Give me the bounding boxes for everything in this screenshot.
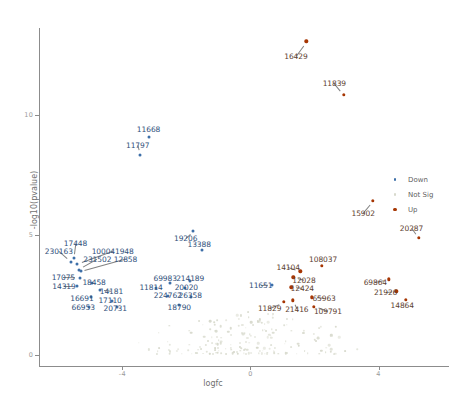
- data-point-not-sig: [211, 342, 213, 344]
- data-point-not-sig: [230, 349, 232, 351]
- point-label: 66953: [72, 303, 95, 312]
- point-label: 12858: [114, 254, 137, 263]
- data-point-not-sig: [325, 351, 327, 353]
- data-point-not-sig: [220, 325, 223, 328]
- data-point-not-sig: [240, 347, 242, 349]
- data-point-not-sig: [272, 313, 274, 315]
- data-point-not-sig: [264, 329, 266, 331]
- data-point-not-sig: [330, 348, 333, 351]
- point-label: 14104: [277, 263, 300, 272]
- data-point-not-sig: [304, 350, 306, 352]
- volcano-plot: -log10(pvalue) logfc 0510-404 1166811797…: [0, 0, 458, 400]
- data-point-not-sig: [248, 317, 250, 319]
- legend-up[interactable]: Up: [388, 202, 456, 217]
- data-point-not-sig: [200, 348, 202, 350]
- data-point-not-sig: [250, 352, 252, 354]
- point-label: 15902: [351, 208, 374, 217]
- point-label: 12028: [292, 275, 315, 284]
- data-point-not-sig: [274, 347, 276, 349]
- data-point-not-sig: [267, 320, 270, 323]
- data-point-not-sig: [284, 324, 286, 326]
- data-point-not-sig: [307, 352, 309, 354]
- data-point-not-sig: [219, 340, 222, 343]
- data-point-not-sig: [286, 318, 288, 320]
- data-point-not-sig: [188, 349, 190, 351]
- x-tick-label: -4: [119, 370, 126, 378]
- data-point-not-sig: [230, 327, 232, 329]
- data-point-not-sig: [277, 353, 278, 354]
- legend-label: Up: [408, 206, 418, 214]
- data-point-not-sig: [202, 324, 203, 325]
- data-point-not-sig: [267, 352, 269, 354]
- data-point-not-sig: [216, 336, 218, 338]
- data-point-not-sig: [256, 346, 258, 348]
- data-point-down: [70, 260, 73, 263]
- point-label: 109791: [314, 307, 342, 316]
- data-point-not-sig: [237, 325, 240, 328]
- data-point-not-sig: [148, 348, 150, 350]
- y-axis-title: -log10(pvalue): [30, 171, 39, 229]
- data-point-not-sig: [236, 314, 238, 316]
- data-point-not-sig: [211, 336, 212, 337]
- data-point-not-sig: [225, 348, 227, 350]
- legend-label: Down: [408, 176, 428, 184]
- data-point-up: [417, 236, 420, 239]
- point-label: 231502: [83, 254, 111, 263]
- legend-marker-icon: [388, 193, 402, 196]
- data-point-not-sig: [225, 353, 227, 355]
- data-point-not-sig: [254, 336, 256, 338]
- data-point-not-sig: [178, 348, 180, 350]
- legend: DownNot SigUp: [388, 172, 456, 217]
- data-point-down: [72, 257, 75, 260]
- data-point-not-sig: [240, 314, 242, 316]
- data-point-not-sig: [271, 316, 273, 318]
- point-label: 14319: [52, 281, 75, 290]
- point-label: 11668: [137, 124, 160, 133]
- point-label: 20731: [104, 303, 127, 312]
- data-point-not-sig: [286, 324, 287, 325]
- legend-down[interactable]: Down: [388, 172, 456, 187]
- data-point-not-sig: [227, 330, 229, 332]
- data-point-not-sig: [326, 347, 328, 349]
- data-point-not-sig: [250, 321, 253, 324]
- data-point-not-sig: [207, 340, 209, 342]
- x-tick-label: 4: [376, 370, 380, 378]
- data-point-not-sig: [272, 332, 275, 335]
- data-point-not-sig: [217, 347, 219, 349]
- data-point-not-sig: [169, 351, 171, 353]
- point-label: 16691: [70, 293, 93, 302]
- data-point-not-sig: [216, 343, 219, 346]
- data-point-not-sig: [190, 331, 193, 334]
- data-point-up: [387, 277, 390, 280]
- data-point-not-sig: [212, 353, 214, 355]
- data-point-not-sig: [237, 353, 239, 355]
- data-point-not-sig: [258, 353, 259, 354]
- data-point-not-sig: [285, 340, 287, 342]
- data-point-not-sig: [302, 332, 304, 334]
- data-point-not-sig: [284, 352, 286, 354]
- data-point-not-sig: [203, 336, 206, 339]
- data-point-not-sig: [333, 353, 335, 355]
- point-label: 16429: [284, 51, 307, 60]
- data-point-not-sig: [169, 325, 170, 326]
- data-point-not-sig: [356, 348, 358, 350]
- data-point-not-sig: [252, 324, 254, 326]
- point-label: 26358: [179, 291, 202, 300]
- data-point-not-sig: [313, 333, 315, 335]
- data-point-not-sig: [264, 323, 266, 325]
- data-point-not-sig: [220, 337, 222, 339]
- data-point-not-sig: [156, 353, 158, 355]
- data-point-not-sig: [138, 342, 139, 343]
- data-point-not-sig: [338, 336, 341, 339]
- data-point-not-sig: [267, 336, 270, 339]
- data-point-not-sig: [292, 319, 294, 321]
- data-point-not-sig: [218, 339, 220, 341]
- point-label: 20287: [400, 223, 423, 232]
- data-point-not-sig: [318, 353, 320, 355]
- data-point-not-sig: [238, 318, 240, 320]
- legend-label: Not Sig: [408, 191, 433, 199]
- data-point-not-sig: [158, 347, 160, 349]
- data-point-not-sig: [158, 332, 160, 334]
- legend-not-sig[interactable]: Not Sig: [388, 187, 456, 202]
- point-label: 108037: [309, 254, 337, 263]
